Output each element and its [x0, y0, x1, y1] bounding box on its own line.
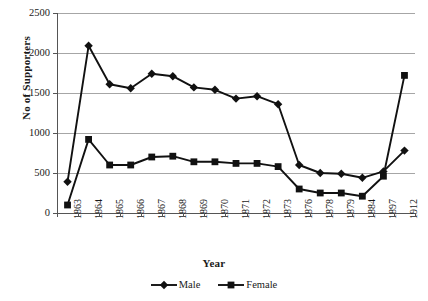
data-point-male-1878 [316, 169, 324, 177]
legend-marker-diamond-icon [151, 279, 177, 291]
data-point-female-1869 [190, 158, 197, 165]
x-axis-title: Year [0, 257, 428, 269]
data-point-male-1868 [169, 72, 177, 80]
data-point-male-1884 [358, 174, 366, 182]
data-point-male-1872 [253, 92, 261, 100]
data-point-female-1867 [148, 154, 155, 161]
data-point-female-1870 [212, 158, 219, 165]
data-point-male-1879 [337, 170, 345, 178]
data-point-female-1868 [169, 153, 176, 160]
data-point-female-1865 [106, 162, 113, 169]
chart-legend: MaleFemale [0, 279, 428, 291]
data-point-male-1876 [295, 161, 303, 169]
data-point-female-1873 [275, 163, 282, 170]
data-point-female-1871 [233, 160, 240, 167]
data-point-male-1863 [63, 178, 71, 186]
data-point-female-1884 [359, 193, 366, 200]
line-chart: No of Supporters 05001000150020002500 18… [0, 0, 428, 301]
legend-label: Male [179, 279, 201, 291]
data-point-female-1866 [127, 162, 134, 169]
data-point-female-1864 [85, 136, 92, 143]
legend-marker-square-icon [218, 279, 244, 291]
data-point-female-1878 [317, 190, 324, 197]
data-point-male-1870 [211, 86, 219, 94]
data-point-male-1864 [84, 42, 92, 50]
data-point-female-1879 [338, 190, 345, 197]
data-point-male-1865 [105, 80, 113, 88]
series-layer [0, 0, 428, 301]
legend-label: Female [246, 279, 277, 291]
data-point-female-1912 [401, 72, 408, 79]
legend-entry-male[interactable]: Male [151, 279, 201, 291]
data-point-male-1871 [232, 94, 240, 102]
data-point-female-1876 [296, 186, 303, 193]
legend-entry-female[interactable]: Female [218, 279, 277, 291]
data-point-male-1873 [274, 100, 282, 108]
data-point-female-1897 [380, 173, 387, 180]
data-point-female-1863 [64, 202, 71, 209]
data-point-male-1869 [190, 83, 198, 91]
data-point-female-1872 [254, 160, 261, 167]
